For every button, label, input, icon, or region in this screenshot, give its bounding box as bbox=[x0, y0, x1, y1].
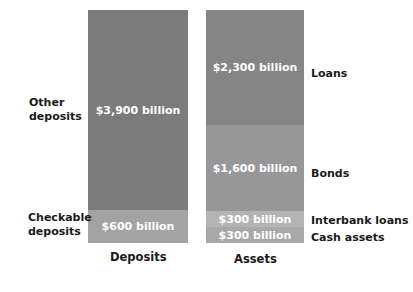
value-other-deposits: $3,900 billion bbox=[96, 104, 181, 117]
label-checkable-line1: Checkable bbox=[28, 211, 92, 225]
label-other-deposits: Other deposits bbox=[29, 96, 82, 124]
segment-bonds: $1,600 billion bbox=[206, 125, 304, 211]
label-loans: Loans bbox=[311, 67, 347, 81]
segment-interbank-loans: $300 billion bbox=[206, 211, 304, 227]
label-other-deposits-line1: Other bbox=[29, 96, 82, 110]
axis-label-assets: Assets bbox=[234, 252, 277, 266]
segment-checkable-deposits: $600 billion bbox=[88, 210, 188, 243]
value-loans: $2,300 billion bbox=[213, 61, 298, 74]
assets-bar: $2,300 billion $1,600 billion $300 billi… bbox=[206, 10, 304, 243]
segment-other-deposits: $3,900 billion bbox=[88, 10, 188, 210]
deposits-bar: $3,900 billion $600 billion bbox=[88, 10, 188, 243]
segment-loans: $2,300 billion bbox=[206, 10, 304, 125]
value-cash-assets: $300 billion bbox=[219, 229, 292, 242]
value-interbank-loans: $300 billion bbox=[219, 213, 292, 226]
label-cash-assets: Cash assets bbox=[311, 231, 385, 245]
label-other-deposits-line2: deposits bbox=[29, 110, 82, 124]
value-checkable-deposits: $600 billion bbox=[102, 220, 175, 233]
label-bonds: Bonds bbox=[311, 167, 349, 181]
value-bonds: $1,600 billion bbox=[213, 162, 298, 175]
label-checkable-deposits: Checkable deposits bbox=[28, 211, 92, 239]
label-interbank-loans: Interbank loans bbox=[311, 214, 408, 228]
axis-label-deposits: Deposits bbox=[110, 250, 167, 264]
segment-cash-assets: $300 billion bbox=[206, 227, 304, 243]
label-checkable-line2: deposits bbox=[28, 225, 92, 239]
